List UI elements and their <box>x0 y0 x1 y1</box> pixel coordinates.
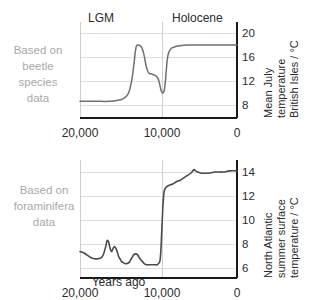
annot-line-3: species <box>19 76 58 88</box>
ylabel-line-1: North Atlantic <box>262 212 274 278</box>
beetle-y-ticklabels: 20 16 12 8 <box>242 27 255 111</box>
annot-line-2: beetle <box>22 60 53 72</box>
foraminifera-panel: 14 12 10 8 6 20,000 10,000 0 North Atlan… <box>14 160 300 300</box>
xtick-0: 0 <box>234 286 241 300</box>
ylabel-line-2: summer surface <box>275 199 287 278</box>
ylabel-line-1: Mean July <box>262 67 274 118</box>
beetle-panel: LGM Holocene 20 16 12 8 20,000 10,000 0 … <box>14 11 300 140</box>
ytick-14: 14 <box>242 166 255 178</box>
annot-line-2: foraminifera <box>14 200 75 212</box>
xtick-10000: 10,000 <box>144 286 181 300</box>
climate-figure: LGM Holocene 20 16 12 8 20,000 10,000 0 … <box>0 0 317 300</box>
xtick-10000: 10,000 <box>144 126 181 140</box>
annot-line-4: data <box>27 92 50 104</box>
ylabel-line-2: temperature <box>275 59 287 118</box>
ytick-8: 8 <box>242 238 248 250</box>
ytick-12: 12 <box>242 75 255 87</box>
ytick-12: 12 <box>242 190 255 202</box>
figure-svg: LGM Holocene 20 16 12 8 20,000 10,000 0 … <box>0 0 317 300</box>
foraminifera-y-axis-title: North Atlantic summer surface temperatur… <box>262 197 300 278</box>
foraminifera-y-ticklabels: 14 12 10 8 6 <box>242 166 255 274</box>
beetle-temperature-curve <box>80 45 237 101</box>
period-label-holocene: Holocene <box>172 11 223 25</box>
annot-line-1: Based on <box>20 184 69 196</box>
ylabel-line-3: temperature / °C <box>288 197 300 278</box>
ytick-10: 10 <box>242 214 255 226</box>
ytick-8: 8 <box>242 99 248 111</box>
ytick-16: 16 <box>242 51 255 63</box>
beetle-y-axis-title: Mean July temperature British Isles / °C <box>262 40 300 118</box>
foraminifera-x-ticklabels: 20,000 10,000 0 <box>62 286 241 300</box>
annot-line-3: data <box>33 216 56 228</box>
beetle-gridlines <box>80 33 237 105</box>
foraminifera-temperature-curve <box>80 170 237 265</box>
beetle-annotation: Based on beetle species data <box>14 44 63 104</box>
annot-line-1: Based on <box>14 44 63 56</box>
beetle-x-ticklabels: 20,000 10,000 0 <box>62 126 241 140</box>
ytick-6: 6 <box>242 262 248 274</box>
foraminifera-annotation: Based on foraminifera data <box>14 184 75 228</box>
xtick-0: 0 <box>234 126 241 140</box>
ylabel-line-3: British Isles / °C <box>288 40 300 118</box>
period-label-lgm: LGM <box>88 11 114 25</box>
xtick-20000: 20,000 <box>62 126 99 140</box>
xtick-20000: 20,000 <box>62 286 99 300</box>
ytick-20: 20 <box>242 27 255 39</box>
